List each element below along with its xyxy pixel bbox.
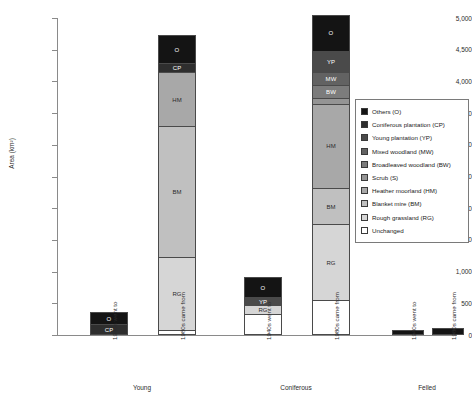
bar-segment-unchanged[interactable]	[159, 330, 195, 334]
legend-label: Coniferous plantation (CP)	[372, 121, 445, 128]
bar-segment-o[interactable]: O	[91, 313, 127, 324]
bar-segment-label: RG	[326, 260, 335, 266]
legend-swatch-icon	[361, 200, 368, 207]
y-axis-tick	[52, 145, 58, 146]
bar-segment-label: O	[329, 30, 334, 36]
legend-swatch-icon	[361, 134, 368, 141]
bar-segment-mw[interactable]: MW	[313, 72, 349, 85]
bar-segment-o[interactable]	[433, 329, 463, 334]
bar-segment-label: CP	[173, 65, 182, 71]
y-axis-tick-label: 4,500	[426, 46, 472, 53]
y-axis-tick	[52, 303, 58, 304]
x-axis-group-label: Felled	[418, 384, 436, 391]
legend: Others (O)Coniferous plantation (CP)Youn…	[355, 99, 469, 243]
bar-segment-label: YP	[327, 59, 335, 65]
y-axis-tick-label: 1,000	[426, 268, 472, 275]
y-axis-tick	[52, 113, 58, 114]
legend-swatch-icon	[361, 214, 368, 221]
legend-item-s[interactable]: Scrub (S)	[361, 171, 464, 184]
bar-segment-cp[interactable]: CP	[159, 63, 195, 72]
legend-swatch-icon	[361, 187, 368, 194]
bar-segment-bw[interactable]: BW	[313, 85, 349, 98]
y-axis-tick-label: 4,000	[426, 78, 472, 85]
bar-segment-label: O	[261, 285, 266, 291]
legend-item-o[interactable]: Others (O)	[361, 105, 464, 118]
bar-segment-rg[interactable]: RG	[313, 224, 349, 300]
y-axis-tick	[52, 18, 58, 19]
x-axis-label: 1980s came from	[179, 292, 186, 340]
legend-label: Unchanged	[372, 227, 404, 234]
bar-segment-cp[interactable]: CP	[91, 324, 127, 334]
legend-label: Young plantation (YP)	[372, 134, 432, 141]
legend-label: Rough grassland (RG)	[372, 214, 434, 221]
y-axis-tick-label: 5,000	[426, 15, 472, 22]
x-axis-label: 1980s came from	[450, 292, 457, 340]
legend-item-rg[interactable]: Rough grassland (RG)	[361, 211, 464, 224]
bar-segment-label: MW	[326, 76, 337, 82]
stacked-bar-chart: Area (km²) 5,0004,5004,0003,5003,0002,50…	[0, 0, 472, 407]
bar-segment-yp[interactable]: YP	[245, 297, 281, 305]
bar-felled-1980s-came-from[interactable]	[432, 328, 464, 335]
x-axis-label: 1940s went to	[265, 301, 272, 340]
legend-item-bw[interactable]: Broadleaved woodland (BW)	[361, 158, 464, 171]
y-axis-tick	[52, 208, 58, 209]
bar-segment-o[interactable]: O	[159, 36, 195, 63]
bar-felled-1940s-went-to[interactable]	[392, 330, 424, 335]
bar-segment-hm[interactable]: HM	[313, 104, 349, 188]
legend-item-hm[interactable]: Heather moorland (HM)	[361, 184, 464, 197]
y-axis-tick	[52, 81, 58, 82]
bar-segment-bm[interactable]: BM	[313, 188, 349, 224]
bar-segment-label: BW	[326, 89, 336, 95]
bar-segment-o[interactable]: O	[245, 278, 281, 297]
bar-segment-rg[interactable]: RG	[245, 305, 281, 314]
legend-item-yp[interactable]: Young plantation (YP)	[361, 131, 464, 144]
bar-young-1980s-came-from[interactable]: OCPHMBMRG	[158, 35, 196, 335]
bar-coniferous-1940s-went-to[interactable]: OYPRG	[244, 277, 282, 335]
bar-segment-label: BM	[172, 189, 181, 195]
bar-segment-unchanged[interactable]	[313, 300, 349, 334]
legend-swatch-icon	[361, 108, 368, 115]
bar-segment-label: O	[175, 47, 180, 53]
y-axis-tick-label: 500	[426, 300, 472, 307]
x-axis-label: 1980s came from	[333, 292, 340, 340]
legend-label: Others (O)	[372, 108, 401, 115]
bar-segment-o[interactable]	[393, 331, 423, 334]
bar-segment-yp[interactable]: YP	[313, 51, 349, 72]
legend-item-cp[interactable]: Coniferous plantation (CP)	[361, 118, 464, 131]
legend-label: Blanket mire (BM)	[372, 200, 422, 207]
bar-segment-label: HM	[172, 97, 182, 103]
y-axis-tick	[52, 335, 58, 336]
legend-item-unchanged[interactable]: Unchanged	[361, 224, 464, 237]
legend-label: Scrub (S)	[372, 174, 398, 181]
bar-segment-rg[interactable]: RG	[159, 257, 195, 329]
legend-swatch-icon	[361, 174, 368, 181]
bar-segment-hm[interactable]: HM	[159, 72, 195, 126]
legend-label: Heather moorland (HM)	[372, 187, 437, 194]
y-axis-title: Area (km²)	[8, 124, 15, 184]
legend-swatch-icon	[361, 121, 368, 128]
bar-coniferous-1980s-came-from[interactable]: OYPMWBWHMBMRG	[312, 15, 350, 335]
legend-swatch-icon	[361, 227, 368, 234]
bar-segment-bm[interactable]: BM	[159, 126, 195, 257]
x-axis-label: 1940s went to	[111, 301, 118, 340]
x-axis-group-label: Young	[133, 384, 151, 391]
bar-segment-label: BM	[326, 204, 335, 210]
bar-segment-unchanged[interactable]	[245, 314, 281, 334]
y-axis-tick	[52, 177, 58, 178]
y-axis-tick	[52, 50, 58, 51]
y-axis-tick	[52, 272, 58, 273]
x-axis-group-label: Coniferous	[280, 384, 311, 391]
bar-segment-o[interactable]: O	[313, 16, 349, 52]
legend-label: Broadleaved woodland (BW)	[372, 161, 451, 168]
legend-swatch-icon	[361, 161, 368, 168]
x-axis-label: 1940s went to	[410, 301, 417, 340]
bar-young-1940s-went-to[interactable]: OCP	[90, 312, 128, 335]
legend-item-bm[interactable]: Blanket mire (BM)	[361, 197, 464, 210]
legend-label: Mixed woodland (MW)	[372, 148, 434, 155]
legend-swatch-icon	[361, 148, 368, 155]
y-axis-tick	[52, 240, 58, 241]
legend-item-mw[interactable]: Mixed woodland (MW)	[361, 145, 464, 158]
bar-segment-label: HM	[326, 143, 336, 149]
